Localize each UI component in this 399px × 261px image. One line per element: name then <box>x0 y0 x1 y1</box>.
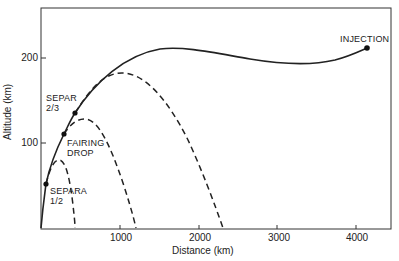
y-tick-label-200: 200 <box>21 52 38 63</box>
y-axis-title: Altitude (km) <box>2 84 13 140</box>
plot-frame <box>41 8 391 229</box>
y-tick-label-100: 100 <box>21 137 38 148</box>
annotation-fairing-line2: DROP <box>67 148 104 158</box>
x-tick-label-2000: 2000 <box>189 232 211 243</box>
annotation-separa-line1: SEPARA <box>50 186 87 196</box>
annotation-injection: INJECTION <box>340 34 389 44</box>
separa-1-2-marker <box>43 181 48 186</box>
annotation-separ-2-3: SEPAR 2/3 <box>46 93 77 113</box>
annotation-separa-line2: 1/2 <box>50 196 87 206</box>
fairing-drop-marker <box>61 131 66 136</box>
x-tick-label-1000: 1000 <box>110 232 132 243</box>
x-axis-title: Distance (km) <box>172 245 234 256</box>
fairing-fall-dashed-line <box>64 119 136 228</box>
annotation-fairing-line1: FAIRING <box>67 138 104 148</box>
annotation-separ23-line1: SEPAR <box>46 93 77 103</box>
x-tick-label-3000: 3000 <box>268 232 290 243</box>
annotation-separa-1-2: SEPARA 1/2 <box>50 186 87 206</box>
injection-marker <box>364 45 370 51</box>
x-tick-label-4000: 4000 <box>346 232 368 243</box>
annotation-separ23-line2: 2/3 <box>46 103 77 113</box>
annotation-fairing-drop: FAIRING DROP <box>67 138 104 158</box>
